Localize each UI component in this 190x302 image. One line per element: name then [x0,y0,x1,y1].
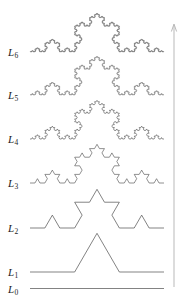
koch-curve-level-3 [30,144,164,183]
level-label-6: L6 [8,47,18,60]
level-label-2: L2 [8,223,18,236]
level-label-subscript: 4 [15,138,19,147]
level-label-0: L0 [8,284,18,297]
level-label-subscript: 0 [15,288,19,297]
level-label-subscript: 5 [15,94,19,103]
level-label-3: L3 [8,178,18,191]
level-label-subscript: 1 [15,271,19,280]
level-label-subscript: 6 [15,51,19,60]
koch-curve-group [30,13,164,288]
koch-curve-level-4 [30,100,164,139]
koch-curve-level-2 [30,189,164,228]
level-label-subscript: 3 [15,182,19,191]
level-label-subscript: 2 [15,227,19,236]
level-label-5: L5 [8,90,18,103]
level-label-letter: L [8,46,14,58]
koch-curve-figure: L0L1L2L3L4L5L6 [0,0,190,302]
koch-curve-canvas [0,0,190,302]
level-label-letter: L [8,89,14,101]
level-label-letter: L [8,177,14,189]
level-label-letter: L [8,222,14,234]
koch-curve-level-6 [30,13,164,52]
level-label-letter: L [8,266,14,278]
level-label-1: L1 [8,267,18,280]
koch-curve-level-1 [30,233,164,272]
level-label-letter: L [8,283,14,295]
koch-curve-level-5 [30,56,164,95]
level-label-letter: L [8,133,14,145]
iteration-direction-arrow [171,24,176,287]
level-label-4: L4 [8,134,18,147]
